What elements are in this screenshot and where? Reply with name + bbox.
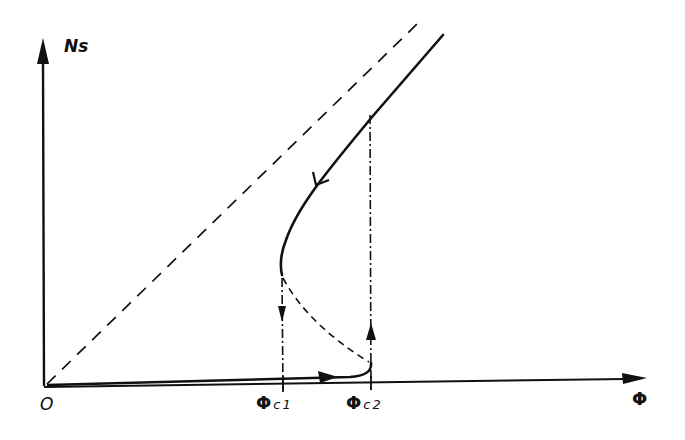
phi-c1-label: Φc1: [256, 392, 293, 413]
y-axis-arrowhead-icon: [37, 38, 49, 64]
y-axis-label: Ns: [64, 36, 88, 56]
upper-stable-branch: [281, 35, 443, 275]
phi-c2-label: Φc2: [346, 392, 383, 413]
unstable-dashed-branch: [283, 278, 369, 362]
phi-c1-subscript: c1: [273, 397, 292, 412]
hysteresis-diagram: [0, 0, 685, 440]
phi-c2-dashdot-line: [370, 115, 371, 390]
jump-down-arrow-icon: [278, 306, 286, 322]
x-axis-label: Φ: [632, 388, 647, 409]
phi-c1-symbol: Φ: [256, 392, 271, 413]
phi-c2-symbol: Φ: [346, 392, 361, 413]
origin-label: O: [40, 394, 53, 414]
lower-branch-arrow-icon: [318, 371, 338, 383]
phi-c1-dashdot-line: [282, 278, 283, 392]
phi-c2-subscript: c2: [363, 397, 382, 412]
jump-up-arrow-icon: [366, 323, 376, 340]
x-axis-arrowhead-icon: [622, 373, 647, 384]
y-axis: [37, 38, 49, 386]
x-axis: [44, 373, 647, 387]
ns-label-text: Ns: [64, 36, 88, 56]
asymptote-dashed-line: [47, 23, 418, 384]
